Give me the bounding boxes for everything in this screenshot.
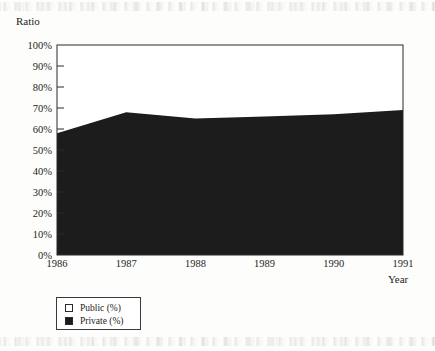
area-chart: 0%10%20%30%40%50%60%70%80%90%100% 198619… xyxy=(0,0,435,300)
black-square-icon xyxy=(65,317,73,325)
chart-canvas xyxy=(0,0,435,300)
scan-artifact-bottom xyxy=(0,337,435,346)
y-tick-label: 50% xyxy=(6,145,52,156)
white-square-icon xyxy=(65,304,73,312)
x-axis-title: Year xyxy=(388,273,408,285)
x-tick-label: 1986 xyxy=(47,258,68,269)
y-tick-label: 0% xyxy=(6,250,52,261)
x-tick-label: 1989 xyxy=(254,258,275,269)
y-tick-label: 40% xyxy=(6,166,52,177)
series-area-private xyxy=(57,110,403,255)
x-tick-label: 1988 xyxy=(185,258,206,269)
chart-legend: Public (%) Private (%) xyxy=(56,297,141,330)
legend-label-private: Private (%) xyxy=(80,316,124,326)
y-tick-label: 100% xyxy=(6,40,52,51)
y-axis-tick-labels: 0%10%20%30%40%50%60%70%80%90%100% xyxy=(6,0,52,300)
legend-item-public: Public (%) xyxy=(65,302,140,314)
x-tick-label: 1987 xyxy=(116,258,137,269)
y-tick-label: 60% xyxy=(6,124,52,135)
y-tick-label: 30% xyxy=(6,187,52,198)
x-tick-label: 1991 xyxy=(393,258,414,269)
y-tick-label: 70% xyxy=(6,103,52,114)
y-tick-label: 80% xyxy=(6,82,52,93)
legend-item-private: Private (%) xyxy=(65,315,140,327)
y-tick-label: 10% xyxy=(6,229,52,240)
legend-label-public: Public (%) xyxy=(80,303,121,313)
x-tick-label: 1990 xyxy=(323,258,344,269)
y-tick-label: 20% xyxy=(6,208,52,219)
y-tick-label: 90% xyxy=(6,61,52,72)
